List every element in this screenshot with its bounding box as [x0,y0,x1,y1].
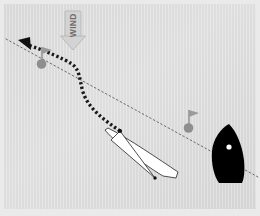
buoy-float-left [37,59,47,69]
buoy-float-right [184,123,194,133]
diagram-canvas [0,0,260,216]
wind-arrow-shaft [65,11,81,37]
sailing-diagram-scene: WIND [0,0,260,216]
black-boat-port-dot [226,144,231,149]
white-boat-mast-dot [118,129,122,133]
white-boat-stern-dot [153,176,156,179]
